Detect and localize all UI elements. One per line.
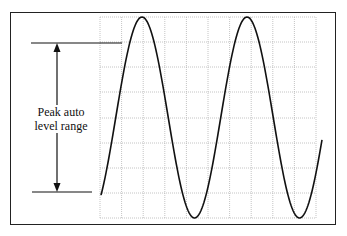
label-line-2: level range — [28, 119, 94, 133]
arrow-down-icon — [54, 183, 61, 192]
sine-waveform — [101, 17, 322, 218]
arrow-up-icon — [54, 43, 61, 52]
peak-auto-level-label: Peak auto level range — [28, 105, 94, 133]
label-line-1: Peak auto — [28, 105, 94, 119]
